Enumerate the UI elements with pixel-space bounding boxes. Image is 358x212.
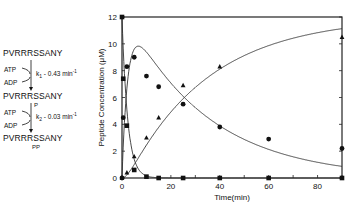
plot-frame <box>122 17 342 178</box>
square-marker <box>121 76 126 81</box>
circle-marker <box>156 84 161 89</box>
triangle-marker <box>340 35 345 39</box>
x-tick-label: 40 <box>215 182 224 191</box>
square-marker <box>217 176 222 181</box>
fit-curve-substrate <box>122 17 342 178</box>
x-tick-label: 80 <box>313 182 322 191</box>
triangle-marker <box>217 64 222 68</box>
circle-marker <box>340 146 345 151</box>
y-tick-label: 4 <box>113 120 118 129</box>
square-marker <box>120 15 125 20</box>
x-axis-label: Time(min) <box>214 193 250 202</box>
square-marker <box>266 176 271 181</box>
triangle-marker <box>156 115 161 119</box>
triangle-marker <box>181 83 186 87</box>
y-tick-label: 10 <box>108 40 117 49</box>
fit-curve-di-phospho <box>122 29 342 178</box>
square-marker <box>132 168 137 173</box>
triangle-marker <box>144 135 149 139</box>
circle-marker <box>181 102 186 107</box>
circle-marker <box>144 74 149 79</box>
square-marker <box>125 123 130 128</box>
y-tick-label: 0 <box>113 174 118 183</box>
circle-marker <box>124 64 129 69</box>
y-axis-label: Peptide Concentration (μM) <box>97 48 106 146</box>
square-marker <box>144 174 149 179</box>
y-tick-label: 12 <box>108 13 117 22</box>
y-tick-label: 6 <box>113 94 118 103</box>
square-marker <box>340 176 345 181</box>
circle-marker <box>132 55 137 60</box>
square-marker <box>156 176 161 181</box>
circle-marker <box>217 125 222 130</box>
fit-curve-mono-phospho <box>122 46 342 178</box>
circle-marker <box>266 137 271 142</box>
kinetics-chart: 024681012020406080Time(min)Peptide Conce… <box>0 0 358 212</box>
square-marker <box>181 176 186 181</box>
x-tick-label: 20 <box>166 182 175 191</box>
x-tick-label: 0 <box>120 182 125 191</box>
y-tick-label: 8 <box>113 67 118 76</box>
x-tick-label: 60 <box>264 182 273 191</box>
y-tick-label: 2 <box>113 147 118 156</box>
circle-marker <box>121 115 126 120</box>
